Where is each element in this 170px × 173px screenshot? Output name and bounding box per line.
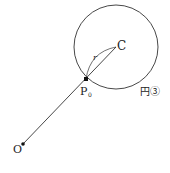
line-o-to-c: [23, 47, 116, 144]
diagram-canvas: C r P 0 O 円③: [0, 0, 170, 173]
label-origin-o: O: [13, 143, 22, 156]
label-point-p: P: [80, 85, 88, 98]
label-point-p-subscript: 0: [88, 91, 92, 98]
label-center-c: C: [117, 39, 126, 53]
point-p0: [84, 77, 88, 81]
label-circle-3: 円③: [140, 86, 160, 97]
label-radius-r: r: [93, 53, 98, 62]
